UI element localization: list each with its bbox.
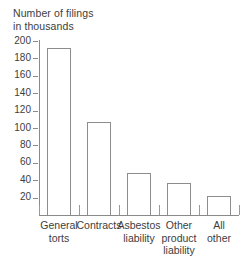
y-axis-tick-mark — [33, 163, 38, 164]
y-axis-tick-mark — [33, 145, 38, 146]
chart-title-line-2: in thousands — [13, 20, 93, 33]
y-axis-tick-label: 180 — [0, 52, 31, 63]
x-axis-line — [39, 215, 239, 216]
bar — [207, 196, 231, 215]
y-axis-tick-mark — [33, 180, 38, 181]
y-axis-tick-label: 200 — [0, 35, 31, 46]
x-axis-label-line: torts — [27, 232, 91, 245]
x-axis-divider-tick — [199, 205, 200, 215]
x-axis-divider-tick — [79, 205, 80, 215]
y-axis-line — [39, 40, 40, 216]
chart-title: Number of filings in thousands — [13, 7, 93, 32]
bar — [87, 122, 111, 215]
x-axis-divider-tick — [39, 205, 40, 215]
bar — [167, 183, 191, 215]
chart-title-line-1: Number of filings — [13, 7, 93, 20]
x-axis-label: Allother — [187, 219, 245, 244]
x-axis-label-line: other — [187, 232, 245, 245]
y-axis-tick-label: 160 — [0, 69, 31, 80]
y-axis-tick-mark — [33, 111, 38, 112]
y-axis-tick-label: 120 — [0, 104, 31, 115]
x-axis-divider-tick — [119, 205, 120, 215]
y-axis-tick-label: 140 — [0, 87, 31, 98]
y-axis-tick-label: 80 — [0, 139, 31, 150]
y-axis-tick-mark — [33, 93, 38, 94]
bar — [127, 173, 151, 215]
x-axis-label-line: All — [187, 219, 245, 232]
y-axis-tick-label: 20 — [0, 191, 31, 202]
bar-chart: Number of filings in thousands 200180160… — [0, 0, 245, 266]
y-axis-tick-label: 40 — [0, 174, 31, 185]
y-axis-tick-mark — [33, 58, 38, 59]
y-axis-tick-mark — [33, 128, 38, 129]
bar — [47, 48, 71, 215]
y-axis-tick-mark — [33, 76, 38, 77]
x-axis-label-line: liability — [147, 244, 211, 257]
y-axis-tick-mark — [33, 41, 38, 42]
y-axis-tick-mark — [33, 198, 38, 199]
x-axis-divider-tick — [239, 205, 240, 215]
y-axis-tick-label: 100 — [0, 122, 31, 133]
x-axis-divider-tick — [159, 205, 160, 215]
y-axis-tick-label: 60 — [0, 156, 31, 167]
